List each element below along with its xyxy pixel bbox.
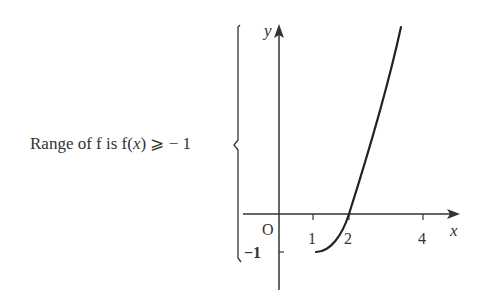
x-tick-label-1: 1 <box>308 230 316 247</box>
y-tick-label-neg1: −1 <box>244 244 261 261</box>
graph: y x O 1 2 4 −1 <box>0 0 482 295</box>
y-axis-label: y <box>262 21 272 40</box>
range-brace <box>234 25 241 262</box>
x-axis-label: x <box>449 221 458 240</box>
x-tick-label-2: 2 <box>344 230 352 247</box>
origin-label: O <box>262 221 274 238</box>
x-tick-label-4: 4 <box>418 230 426 247</box>
function-curve <box>316 27 401 252</box>
